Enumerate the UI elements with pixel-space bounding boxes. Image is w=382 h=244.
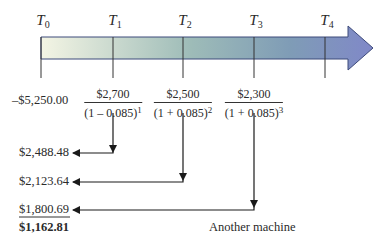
period-label-t2: T2 [178, 12, 191, 30]
period-label-t4: T4 [320, 12, 333, 30]
fraction-denominator: (1 – 0.085)1 [84, 103, 142, 120]
fraction-denominator: (1 + 0.085)2 [154, 103, 212, 120]
net-present-value-total: $1,162.81 [19, 220, 69, 235]
discount-fraction-t3: $2,300 (1 + 0.085)3 [225, 88, 283, 120]
initial-outlay: –$5,250.00 [12, 93, 68, 108]
present-value-t1: $2,488.48 [19, 145, 69, 160]
diagram-caption: Another machine [209, 220, 295, 235]
fraction-denominator: (1 + 0.085)3 [225, 103, 283, 120]
present-value-t3: $1,800.69 [19, 202, 69, 217]
fraction-numerator: $2,300 [225, 88, 283, 103]
period-label-t0: T0 [36, 12, 49, 30]
timeline-arrow [41, 26, 373, 70]
discount-fraction-t1: $2,700 (1 – 0.085)1 [84, 88, 142, 120]
present-value-t2: $2,123.64 [19, 174, 69, 189]
fraction-numerator: $2,700 [84, 88, 142, 103]
discount-fraction-t2: $2,500 (1 + 0.085)2 [154, 88, 212, 120]
period-label-t1: T1 [108, 12, 121, 30]
fraction-numerator: $2,500 [154, 88, 212, 103]
discount-arrows [73, 113, 254, 210]
period-label-t3: T3 [249, 12, 262, 30]
